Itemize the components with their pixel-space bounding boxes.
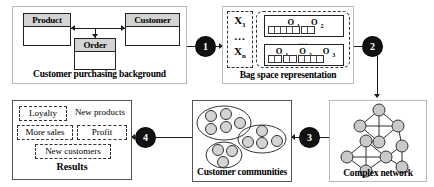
step-badge-2: 2 <box>363 37 382 56</box>
step-badge-1: 1 <box>196 37 215 56</box>
diagram-canvas: Product Customer Order Customer purchasi… <box>0 0 434 187</box>
item-cell <box>293 27 299 33</box>
bag-objects-container: O1 O2 ... O1 O2 O3 <box>256 11 350 68</box>
result-item-loyalty: Loyalty <box>19 106 67 121</box>
item-group <box>298 55 324 63</box>
item-cell <box>290 56 296 62</box>
bag-row-2-item-strip <box>268 55 340 63</box>
item-group <box>268 26 300 34</box>
uml-class-order-title: Order <box>75 39 115 52</box>
item-cell <box>317 56 323 62</box>
panel-complex-network: Complex network <box>329 100 427 182</box>
connector-step2-to-network-vertical <box>377 56 378 97</box>
connector-network-to-step3 <box>319 137 329 138</box>
instance-column: X1 ... Xn <box>227 11 253 68</box>
panel-customer-purchasing-background: Product Customer Order Customer purchasi… <box>12 6 187 84</box>
assoc-line-horizontal <box>71 28 125 29</box>
uml-class-product-title: Product <box>24 14 70 27</box>
uml-class-product: Product <box>23 13 71 46</box>
panel-communities-caption: Customer communities <box>193 167 291 177</box>
uml-class-order-body <box>75 52 115 69</box>
uml-class-customer: Customer <box>125 13 180 46</box>
uml-class-product-body <box>24 27 70 45</box>
panel-bagspace-caption: Bag space representation <box>223 70 353 80</box>
panel-results-caption: Results <box>13 160 131 173</box>
connector-bagspace-to-step2 <box>354 46 363 47</box>
bag-row-1: O1 O2 <box>264 15 344 37</box>
item-group <box>301 26 315 34</box>
instance-label-first: X1 <box>228 14 252 29</box>
item-group <box>283 55 297 63</box>
bag-row-2: O1 O2 O3 <box>264 44 344 66</box>
result-item-profit: Profit <box>77 125 127 140</box>
item-cell <box>308 27 314 33</box>
assoc-arrow-to-order-icon <box>92 34 98 38</box>
arrow-into-network-icon <box>374 94 380 98</box>
step-badge-4: 4 <box>136 128 155 147</box>
item-cell <box>275 56 281 62</box>
item-group <box>268 55 282 63</box>
panel-results: Loyalty New products More sales Profit N… <box>12 100 132 180</box>
panel-customer-communities: Customer communities <box>192 100 292 182</box>
panel-background-caption: Customer purchasing background <box>13 69 186 79</box>
uml-class-order: Order <box>74 38 116 70</box>
result-item-more-sales: More sales <box>17 125 73 140</box>
result-item-new-customers: New customers <box>35 144 111 159</box>
uml-class-customer-title: Customer <box>126 14 179 27</box>
assoc-arrow-to-product-icon <box>71 25 75 31</box>
panel-network-caption: Complex network <box>330 168 426 178</box>
instance-ellipsis: ... <box>228 30 252 42</box>
panel-bag-space-representation: X1 ... Xn O1 O2 <box>222 6 354 84</box>
assoc-arrow-to-customer-icon <box>121 25 125 31</box>
connector-communities-to-step4 <box>155 137 192 138</box>
step-badge-3: 3 <box>300 128 319 147</box>
uml-class-customer-body <box>126 27 179 45</box>
result-item-new-products: New products <box>71 106 129 121</box>
instance-label-last: Xn <box>228 45 252 60</box>
bag-row-1-item-strip <box>268 26 340 34</box>
